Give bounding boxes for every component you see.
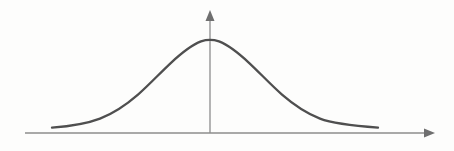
figure-canvas	[0, 0, 454, 151]
figure-background	[0, 0, 454, 151]
bell-curve-figure	[0, 0, 454, 151]
